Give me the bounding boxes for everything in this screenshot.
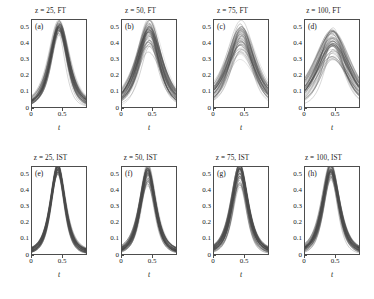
x-axis-label: t xyxy=(121,270,177,279)
y-tick-label: 0.4 xyxy=(282,40,302,47)
y-tick-label: 0.5 xyxy=(99,171,119,178)
y-tick-label: 0.5 xyxy=(282,24,302,31)
x-axis-label: t xyxy=(31,270,87,279)
plot-area xyxy=(213,19,269,108)
figure-canvas: z = 25, FT00.10.20.30.40.500.5(a)tz = 50… xyxy=(0,0,374,299)
panel-letter: (g) xyxy=(217,169,226,178)
x-tick-label: 0.5 xyxy=(54,110,70,118)
panel-title: z = 25, FT xyxy=(8,7,93,15)
x-tick-label: 0 xyxy=(113,257,129,265)
y-axis-ticks: 00.10.20.30.40.5 xyxy=(8,19,29,108)
y-tick-label: 0.1 xyxy=(99,88,119,95)
y-tick-label: 0.5 xyxy=(282,171,302,178)
y-tick-label: 0.5 xyxy=(9,171,29,178)
y-tick-label: 0.3 xyxy=(282,203,302,210)
y-tick-label: 0.4 xyxy=(282,187,302,194)
y-tick-label: 0.4 xyxy=(99,187,119,194)
y-tick-label: 0.2 xyxy=(9,72,29,79)
x-tick-label: 0.5 xyxy=(144,257,160,265)
y-tick-label: 0.4 xyxy=(191,40,211,47)
y-tick-label: 0.1 xyxy=(282,235,302,242)
curve-ensemble xyxy=(214,167,268,254)
y-tick-label: 0.2 xyxy=(99,219,119,226)
curve-ensemble xyxy=(305,20,359,107)
y-tick-label: 0.5 xyxy=(9,24,29,31)
y-tick-label: 0.5 xyxy=(191,171,211,178)
x-tick-label: 0.5 xyxy=(54,257,70,265)
y-axis-ticks: 00.10.20.30.40.5 xyxy=(190,166,211,255)
y-tick-label: 0.3 xyxy=(9,203,29,210)
plot-panel: z = 25, FT00.10.20.30.40.500.5(a)t xyxy=(8,5,93,142)
y-tick-label: 0.2 xyxy=(191,219,211,226)
x-tick-label: 0 xyxy=(296,257,312,265)
x-tick-label: 0.5 xyxy=(144,110,160,118)
y-axis-ticks: 00.10.20.30.40.5 xyxy=(281,19,302,108)
x-tick-label: 0.5 xyxy=(236,257,252,265)
panel-title: z = 75, IST xyxy=(190,154,275,162)
y-tick-label: 0.4 xyxy=(99,40,119,47)
y-tick-label: 0.1 xyxy=(99,235,119,242)
panel-title: z = 100, FT xyxy=(281,7,366,15)
panel-title: z = 50, FT xyxy=(98,7,183,15)
x-tick-label: 0 xyxy=(23,257,39,265)
panel-title: z = 25, IST xyxy=(8,154,93,162)
y-tick-label: 0.3 xyxy=(99,203,119,210)
panel-letter: (d) xyxy=(308,22,317,31)
plot-area xyxy=(121,166,177,255)
panel-title: z = 50, IST xyxy=(98,154,183,162)
y-tick-label: 0.1 xyxy=(9,235,29,242)
panel-title: z = 100, IST xyxy=(281,154,366,162)
x-axis-label: t xyxy=(121,123,177,132)
plot-panel: z = 75, FT00.10.20.30.40.500.5(c)t xyxy=(190,5,275,142)
x-axis-label: t xyxy=(304,270,360,279)
x-axis-label: t xyxy=(213,123,269,132)
y-tick-label: 0.2 xyxy=(282,219,302,226)
y-tick-label: 0.1 xyxy=(191,235,211,242)
y-tick-label: 0.3 xyxy=(9,56,29,63)
y-tick-label: 0.3 xyxy=(191,203,211,210)
y-tick-label: 0.5 xyxy=(99,24,119,31)
plot-panel: z = 50, FT00.10.20.30.40.500.5(b)t xyxy=(98,5,183,142)
curve-ensemble xyxy=(122,20,176,107)
panel-letter: (b) xyxy=(125,22,134,31)
plot-area xyxy=(304,166,360,255)
y-tick-label: 0.4 xyxy=(191,187,211,194)
y-axis-ticks: 00.10.20.30.40.5 xyxy=(98,166,119,255)
curve-ensemble xyxy=(214,20,268,107)
plot-panel: z = 50, IST00.10.20.30.40.500.5(f)t xyxy=(98,152,183,289)
x-tick-label: 0 xyxy=(113,110,129,118)
x-axis-label: t xyxy=(31,123,87,132)
x-tick-label: 0.5 xyxy=(236,110,252,118)
y-axis-ticks: 00.10.20.30.40.5 xyxy=(190,19,211,108)
panel-letter: (e) xyxy=(35,169,43,178)
panel-letter: (f) xyxy=(125,169,132,178)
x-axis-label: t xyxy=(213,270,269,279)
curve-ensemble xyxy=(32,20,86,107)
curve-ensemble xyxy=(305,167,359,254)
plot-area xyxy=(31,166,87,255)
x-tick-label: 0 xyxy=(296,110,312,118)
x-tick-label: 0.5 xyxy=(327,257,343,265)
y-tick-label: 0.4 xyxy=(9,40,29,47)
plot-panel: z = 100, FT00.10.20.30.40.500.5(d)t xyxy=(281,5,366,142)
x-tick-label: 0 xyxy=(205,257,221,265)
y-axis-ticks: 00.10.20.30.40.5 xyxy=(281,166,302,255)
y-axis-ticks: 00.10.20.30.40.5 xyxy=(98,19,119,108)
panel-letter: (h) xyxy=(308,169,317,178)
y-tick-label: 0.1 xyxy=(282,88,302,95)
y-tick-label: 0.3 xyxy=(191,56,211,63)
plot-area xyxy=(304,19,360,108)
y-tick-label: 0.1 xyxy=(9,88,29,95)
x-tick-label: 0 xyxy=(23,110,39,118)
plot-panel: z = 25, IST00.10.20.30.40.500.5(e)t xyxy=(8,152,93,289)
x-tick-label: 0.5 xyxy=(327,110,343,118)
plot-area xyxy=(121,19,177,108)
y-tick-label: 0.1 xyxy=(191,88,211,95)
y-tick-label: 0.3 xyxy=(99,56,119,63)
plot-panel: z = 100, IST00.10.20.30.40.500.5(h)t xyxy=(281,152,366,289)
panel-title: z = 75, FT xyxy=(190,7,275,15)
panel-letter: (c) xyxy=(217,22,225,31)
y-tick-label: 0.5 xyxy=(191,24,211,31)
y-tick-label: 0.2 xyxy=(9,219,29,226)
panel-letter: (a) xyxy=(35,22,43,31)
